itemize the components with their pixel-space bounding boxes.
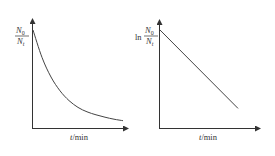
right-y-numerator: N0 bbox=[144, 25, 154, 36]
right-chart: ln N0 Nt t/min bbox=[135, 20, 260, 142]
right-linear-line bbox=[160, 30, 238, 108]
left-decay-curve bbox=[33, 30, 123, 121]
left-chart: N0 Nt t/min bbox=[15, 19, 128, 142]
left-y-numerator: N0 bbox=[15, 25, 25, 36]
right-y-prefix: ln bbox=[135, 32, 142, 42]
left-x-label: t/min bbox=[70, 132, 89, 142]
right-y-label: ln N0 Nt bbox=[135, 25, 158, 47]
right-x-label: t/min bbox=[199, 132, 218, 142]
right-y-denominator: Nt bbox=[145, 36, 154, 47]
left-y-label: N0 Nt bbox=[15, 25, 29, 47]
figure: N0 Nt t/min ln N0 Nt t/min bbox=[0, 0, 275, 156]
left-y-denominator: Nt bbox=[16, 36, 25, 47]
